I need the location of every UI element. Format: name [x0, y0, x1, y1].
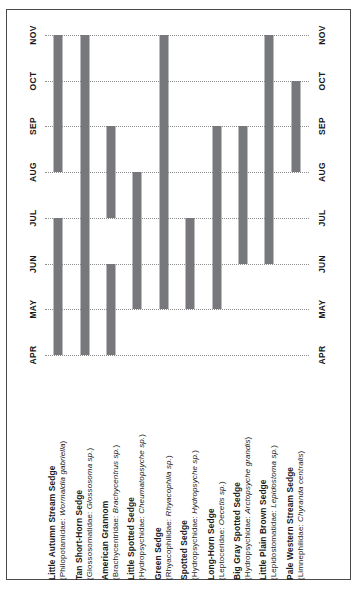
species-label-column: Little Autumn Stream Sedge(Philopotamida…: [45, 365, 309, 580]
species-common-name: Spotted Sedge: [180, 365, 190, 580]
bar-segment: [159, 35, 168, 309]
species-genus: Cheumatopsyche sp.: [137, 437, 146, 514]
bar-column: [256, 35, 282, 355]
species-label: Long-Horn Sedge(Leptoceridae: Oecetis sp…: [207, 365, 227, 580]
month-tick-jun: JUN: [26, 253, 40, 275]
species-label: Pale Western Stream Sedge(Limnephilidae:…: [286, 365, 306, 580]
plot-area: [45, 35, 309, 355]
month-tick-may: MAY: [315, 298, 329, 320]
species-genus: Wormaldia gabriella: [58, 443, 67, 516]
species-genus: Hydropsyche sp.: [190, 453, 199, 514]
bar-column: [98, 35, 124, 355]
species-common-name: Little Spotted Sedge: [127, 365, 137, 580]
month-tick-sep: SEP: [26, 115, 40, 137]
species-scientific-name: (Limnephilidae: Chyranda centralis): [295, 365, 305, 580]
species-common-name: Long-Horn Sedge: [207, 365, 217, 580]
bar-column: [203, 35, 229, 355]
species-genus: Lepidostoma sp.: [269, 448, 278, 508]
bar-segment: [106, 264, 115, 355]
month-tick-nov: NOV: [26, 24, 40, 46]
month-tick-oct: OCT: [26, 70, 40, 92]
species-genus: Glossosoma sp.: [84, 451, 93, 510]
species-scientific-name: (Hydropsychidae: Cheumatopsyche sp.): [137, 365, 147, 580]
month-tick-jun: JUN: [315, 253, 329, 275]
figure-frame: NOVOCTSEPAUGJULJUNMAYAPR NOVOCTSEPAUGJUL…: [6, 9, 351, 580]
bar-segment: [133, 172, 142, 309]
species-scientific-name: (Lepidostomatidae: Lepidostoma sp.): [269, 365, 279, 580]
species-label: Little Plain Brown Sedge(Lepidostomatida…: [259, 365, 279, 580]
page-root: NOVOCTSEPAUGJULJUNMAYAPR NOVOCTSEPAUGJUL…: [0, 0, 358, 589]
month-axis-left: NOVOCTSEPAUGJULJUNMAYAPR: [22, 35, 44, 355]
species-common-name: American Grannom: [101, 365, 111, 580]
species-genus: Rhyacophila sp.: [163, 458, 172, 516]
species-label: Tan Short-Horn Sedge(Glossosomatidae: Gl…: [75, 365, 95, 580]
species-label: Big Gray Spotted Sedge(Hydropsychidae: A…: [233, 365, 253, 580]
bar-column: [151, 35, 177, 355]
bar-segment: [186, 218, 195, 309]
month-tick-nov: NOV: [315, 24, 329, 46]
species-scientific-name: (Glossosomatidae: Glossosoma sp.): [84, 365, 94, 580]
species-genus: Chyranda centralis: [295, 453, 304, 522]
bar-segment: [238, 126, 247, 263]
bar-segment: [54, 218, 63, 355]
bar-segment: [212, 126, 221, 309]
species-label: American Grannom(Brachycentridae: Brachy…: [101, 365, 121, 580]
bar-segment: [106, 126, 115, 217]
species-scientific-name: (Leptoceridae: Oecetis sp.): [216, 365, 226, 580]
month-tick-aug: AUG: [315, 161, 329, 183]
month-axis-right: NOVOCTSEPAUGJULJUNMAYAPR: [311, 35, 333, 355]
species-scientific-name: (Philopotamidae: Wormaldia gabriella): [58, 365, 68, 580]
species-common-name: Pale Western Stream Sedge: [286, 365, 296, 580]
month-tick-jul: JUL: [26, 207, 40, 229]
month-tick-apr: APR: [315, 344, 329, 366]
bar-segment: [291, 81, 300, 172]
species-label: Little Spotted Sedge(Hydropsychidae: Che…: [127, 365, 147, 580]
species-scientific-name: (Hydropsychidae: Arctopsyche grandis): [243, 365, 253, 580]
month-tick-may: MAY: [26, 298, 40, 320]
bar-column: [71, 35, 97, 355]
bar-column: [45, 35, 71, 355]
month-tick-aug: AUG: [26, 161, 40, 183]
emergence-chart: NOVOCTSEPAUGJULJUNMAYAPR NOVOCTSEPAUGJUL…: [15, 21, 356, 588]
month-tick-sep: SEP: [315, 115, 329, 137]
species-label: Green Sedge(Rhyacophilidae: Rhyacophila …: [154, 365, 174, 580]
species-label: Spotted Sedge(Hydropsychidae: Hydropsych…: [180, 365, 200, 580]
bar-column: [124, 35, 150, 355]
gridline-apr: [45, 355, 309, 356]
species-genus: Arctopsyche grandis: [243, 439, 252, 513]
species-genus: Oecetis sp.: [216, 484, 225, 525]
species-common-name: Tan Short-Horn Sedge: [75, 365, 85, 580]
bar-column: [177, 35, 203, 355]
bar-segment: [80, 35, 89, 355]
month-tick-jul: JUL: [315, 207, 329, 229]
bar-column: [283, 35, 309, 355]
species-scientific-name: (Brachycentridae: Brachycentrus sp.): [111, 365, 121, 580]
species-common-name: Little Plain Brown Sedge: [259, 365, 269, 580]
species-scientific-name: (Rhyacophilidae: Rhyacophila sp.): [163, 365, 173, 580]
species-common-name: Green Sedge: [154, 365, 164, 580]
species-common-name: Little Autumn Stream Sedge: [48, 365, 58, 580]
species-scientific-name: (Hydropsychidae: Hydropsyche sp.): [190, 365, 200, 580]
species-genus: Brachycentrus sp.: [111, 448, 120, 514]
species-label: Little Autumn Stream Sedge(Philopotamida…: [48, 365, 68, 580]
species-common-name: Big Gray Spotted Sedge: [233, 365, 243, 580]
month-tick-oct: OCT: [315, 70, 329, 92]
bar-segment: [54, 35, 63, 172]
bar-column: [230, 35, 256, 355]
month-tick-apr: APR: [26, 344, 40, 366]
bar-segment: [265, 35, 274, 264]
